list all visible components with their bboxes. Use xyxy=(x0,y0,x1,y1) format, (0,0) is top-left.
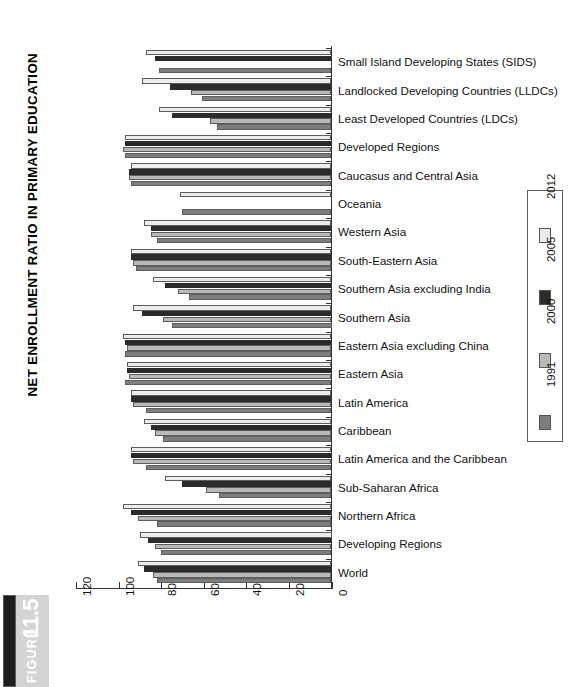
bar-1991 xyxy=(125,153,332,158)
bar-2005 xyxy=(142,311,331,316)
category-label: Least Developed Countries (LDCs) xyxy=(338,112,518,125)
bar-2000 xyxy=(153,572,332,577)
category-label: Landlocked Developing Countries (LLDCs) xyxy=(338,84,558,97)
bar-2005 xyxy=(148,538,331,543)
category-label: Northern Africa xyxy=(338,509,415,522)
bar-2012 xyxy=(138,561,332,566)
category-label: South-Eastern Asia xyxy=(338,254,437,267)
x-axis-tick-label: 80 xyxy=(166,583,178,596)
bar-2000 xyxy=(163,317,331,322)
bar-2000 xyxy=(155,430,332,435)
legend-label: 1991 xyxy=(545,361,557,386)
bar-2005 xyxy=(129,169,331,174)
legend-item-1991: 1991 xyxy=(528,379,562,442)
y-axis-tick xyxy=(326,360,332,361)
y-axis-tick xyxy=(326,303,332,304)
bar-2012 xyxy=(144,419,331,424)
x-axis-tick-label: 20 xyxy=(294,583,306,596)
bar-2012 xyxy=(146,50,331,55)
bar-1991 xyxy=(161,550,331,555)
bar-2000 xyxy=(178,289,331,294)
y-axis-tick xyxy=(326,76,332,77)
bar-1991 xyxy=(157,578,332,583)
bar-1991 xyxy=(146,408,331,413)
bar-1991 xyxy=(163,436,331,441)
legend-label: 2012 xyxy=(545,174,557,199)
bar-1991 xyxy=(217,124,332,129)
category-label: Southern Asia xyxy=(338,311,410,324)
bar-2005 xyxy=(182,481,331,486)
y-axis-tick xyxy=(326,218,332,219)
category-label: Southern Asia excluding India xyxy=(338,282,491,295)
bar-2012 xyxy=(131,390,331,395)
y-axis-tick xyxy=(326,530,332,531)
category-label: Small Island Developing States (SIDS) xyxy=(338,55,536,68)
category-label: Eastern Asia excluding China xyxy=(338,339,489,352)
bar-2012 xyxy=(123,504,332,509)
y-axis-tick xyxy=(326,388,332,389)
bar-2012 xyxy=(159,107,331,112)
bar-1991 xyxy=(125,351,332,356)
bar-2012 xyxy=(153,277,332,282)
bar-2000 xyxy=(129,374,331,379)
y-axis-tick xyxy=(326,48,332,49)
bar-1991 xyxy=(159,68,331,73)
y-axis-tick xyxy=(326,275,332,276)
x-axis-tick-label: 0 xyxy=(337,590,349,596)
bar-2005 xyxy=(125,141,332,146)
y-axis-tick xyxy=(326,502,332,503)
bar-2005 xyxy=(151,226,332,231)
bar-2000 xyxy=(151,232,332,237)
bar-2012 xyxy=(131,163,331,168)
bar-2012 xyxy=(140,532,332,537)
bar-1991 xyxy=(146,465,331,470)
bar-2000 xyxy=(210,118,331,123)
chart-legend: 2012200520001991 xyxy=(527,190,563,442)
x-axis-tick-label: 60 xyxy=(209,583,221,596)
bar-2012 xyxy=(133,305,331,310)
bar-2005 xyxy=(131,510,331,515)
bar-2005 xyxy=(144,566,331,571)
bar-1991 xyxy=(219,493,332,498)
bar-2012 xyxy=(144,220,331,225)
legend-label: 2005 xyxy=(545,236,557,261)
bar-2012 xyxy=(131,447,331,452)
category-label: World xyxy=(338,566,368,579)
bar-1991 xyxy=(202,96,332,101)
bar-2000 xyxy=(155,544,332,549)
bar-2005 xyxy=(165,283,331,288)
x-axis-tick-label: 120 xyxy=(81,577,93,596)
bar-2000 xyxy=(133,402,331,407)
bar-1991 xyxy=(182,209,331,214)
bar-2000 xyxy=(133,260,331,265)
category-label: Developing Regions xyxy=(338,537,442,550)
bar-2012 xyxy=(165,476,331,481)
bar-2005 xyxy=(172,113,332,118)
bar-2000 xyxy=(123,147,332,152)
y-axis-tick xyxy=(326,161,332,162)
category-label: Latin America and the Caribbean xyxy=(338,452,507,465)
bar-1991 xyxy=(189,294,332,299)
bar-2000 xyxy=(133,459,331,464)
category-label: Sub-Saharan Africa xyxy=(338,481,439,494)
bar-2005 xyxy=(131,254,331,259)
bar-1991 xyxy=(125,380,332,385)
bar-2005 xyxy=(155,56,332,61)
bar-2005 xyxy=(131,396,331,401)
bar-2012 xyxy=(131,249,331,254)
legend-swatch-1991 xyxy=(539,415,551,430)
bar-2005 xyxy=(127,368,331,373)
bar-2012 xyxy=(125,135,332,140)
category-label: Eastern Asia xyxy=(338,367,403,380)
bar-2005 xyxy=(170,84,332,89)
bar-2000 xyxy=(129,175,331,180)
bar-2012 xyxy=(127,362,331,367)
bar-1991 xyxy=(172,323,332,328)
x-axis-tick xyxy=(332,582,333,589)
category-label: Developed Regions xyxy=(338,140,439,153)
x-axis-tick xyxy=(119,582,120,589)
category-label: Caucasus and Central Asia xyxy=(338,169,478,182)
bar-2000 xyxy=(127,345,331,350)
